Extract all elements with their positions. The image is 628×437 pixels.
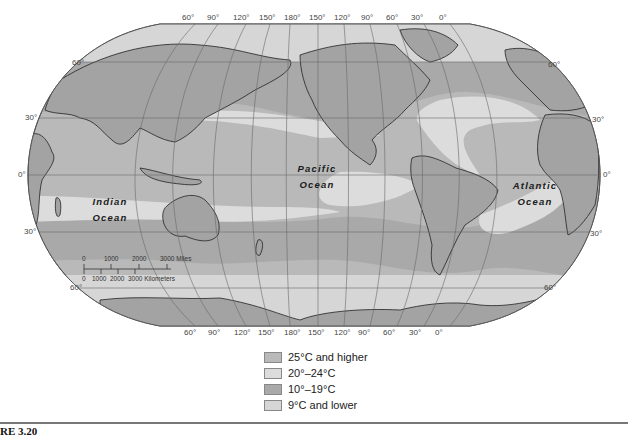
lat-label-right: 0°	[603, 170, 611, 179]
scale-km-tick: 3000 Kilometers	[128, 275, 175, 282]
legend-swatch	[264, 368, 282, 379]
ocean-label-line: Pacific	[282, 161, 352, 177]
scale-miles-tick: 2000	[132, 255, 146, 262]
lat-label-left: 60°	[70, 283, 82, 292]
scale-miles-tick: 0	[82, 255, 86, 262]
scale-miles-tick: 1000	[104, 255, 118, 262]
ocean-label-line: Ocean	[80, 210, 140, 226]
figure-number: RE 3.20	[0, 425, 37, 437]
lon-label-top: 90°	[361, 13, 373, 22]
lon-label-top: 150°	[309, 13, 326, 22]
lon-label-top: 0°	[439, 13, 447, 22]
lon-label-bottom: 60°	[184, 328, 196, 337]
scale-km-tick: 0	[82, 275, 86, 282]
indian-ocean-label: Indian Ocean	[80, 194, 140, 226]
scale-km-tick: 1000	[92, 275, 106, 282]
legend-swatch	[264, 400, 282, 411]
legend: 25°C and higher 20°–24°C 10°–19°C 9°C an…	[264, 349, 368, 413]
lon-label-bottom: 150°	[258, 328, 275, 337]
ocean-label-line: Ocean	[282, 177, 352, 193]
lon-label-top: 90°	[207, 13, 219, 22]
legend-item: 20°–24°C	[264, 365, 368, 381]
scale-bar-line	[83, 264, 173, 274]
lat-label-right: 60°	[548, 60, 560, 69]
lon-label-top: 150°	[259, 13, 276, 22]
lat-label-right: 60°	[544, 283, 556, 292]
legend-label: 20°–24°C	[288, 367, 335, 379]
lat-label-right: 30°	[590, 229, 602, 238]
lon-label-bottom: 30°	[409, 328, 421, 337]
lon-label-bottom: 180°	[284, 328, 301, 337]
legend-item: 9°C and lower	[264, 397, 368, 413]
scale-miles-tick: 3000 Miles	[160, 255, 191, 262]
lat-label-right: 30°	[592, 115, 604, 124]
lon-label-bottom: 120°	[334, 328, 351, 337]
lon-label-bottom: 90°	[358, 328, 370, 337]
lon-label-bottom: 120°	[234, 328, 251, 337]
lon-label-top: 60°	[182, 13, 194, 22]
lat-label-left: 0°	[18, 170, 26, 179]
legend-label: 25°C and higher	[288, 351, 368, 363]
scale-km-tick: 2000	[110, 275, 124, 282]
ocean-label-line: Indian	[80, 194, 140, 210]
lon-label-bottom: 90°	[208, 328, 220, 337]
lon-label-top: 120°	[233, 13, 250, 22]
lon-label-top: 60°	[386, 13, 398, 22]
legend-item: 10°–19°C	[264, 381, 368, 397]
lon-label-bottom: 150°	[308, 328, 325, 337]
lon-label-top: 30°	[411, 13, 423, 22]
ocean-label-line: Atlantic	[500, 178, 570, 194]
ocean-label-line: Ocean	[500, 194, 570, 210]
legend-label: 10°–19°C	[288, 383, 335, 395]
lon-label-bottom: 0°	[435, 328, 443, 337]
legend-label: 9°C and lower	[288, 399, 357, 411]
land-madagascar	[55, 198, 60, 217]
world-map: 60° 90° 120° 150° 180° 150° 120° 90° 60°…	[0, 0, 628, 340]
legend-item: 25°C and higher	[264, 349, 368, 365]
lon-label-bottom: 60°	[383, 328, 395, 337]
atlantic-ocean-label: Atlantic Ocean	[500, 178, 570, 210]
legend-swatch	[264, 384, 282, 395]
lon-label-top: 120°	[334, 13, 351, 22]
legend-swatch	[264, 352, 282, 363]
lon-label-top: 180°	[284, 13, 301, 22]
figure-caption: RE 3.20	[0, 425, 37, 437]
pacific-ocean-label: Pacific Ocean	[282, 161, 352, 193]
lat-label-left: 60°	[72, 58, 84, 67]
caption-divider	[0, 422, 628, 424]
lat-label-left: 30°	[25, 113, 37, 122]
lat-label-left: 30°	[24, 227, 36, 236]
